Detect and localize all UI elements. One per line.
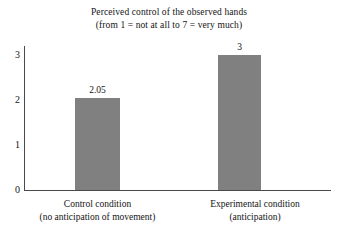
bar-chart: Perceived control of the observed hands … (0, 0, 338, 232)
x-axis-line (24, 190, 331, 191)
bar-value-label-experimental: 3 (209, 42, 270, 52)
y-tick-label-3: 3 (2, 50, 20, 60)
y-tick-label-0: 0 (2, 185, 20, 195)
y-tick-label-2: 2 (2, 95, 20, 105)
bar-control-condition (75, 98, 120, 190)
x-category-label-control-line2: (no anticipation of movement) (12, 211, 183, 224)
x-category-label-control-line1: Control condition (12, 198, 183, 211)
x-category-label-experimental-line1: Experimental condition (172, 198, 338, 211)
plot-area: 0 1 2 3 2.05 3 Control condition (no ant… (0, 0, 338, 232)
bar-experimental-condition (218, 55, 261, 190)
x-category-label-control: Control condition (no anticipation of mo… (12, 198, 183, 223)
y-axis-line (24, 46, 25, 191)
bar-value-label-control: 2.05 (67, 85, 128, 95)
x-category-label-experimental-line2: (anticipation) (172, 211, 338, 224)
x-category-label-experimental: Experimental condition (anticipation) (172, 198, 338, 223)
y-tick-label-1: 1 (2, 140, 20, 150)
